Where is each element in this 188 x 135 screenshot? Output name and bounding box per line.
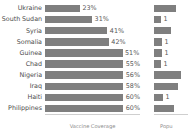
bar[interactable] <box>154 105 174 112</box>
bar[interactable] <box>45 94 123 101</box>
bar-row: Ukraine 23% <box>0 3 140 14</box>
bar[interactable] <box>154 94 163 101</box>
bar-row: Nigeria 56% <box>0 70 140 81</box>
bar-plot-area: Ukraine 23% South Sudan 31% Syria 41% <box>0 3 140 114</box>
bar-row: 1 <box>140 14 188 25</box>
bar[interactable] <box>154 27 171 34</box>
bar-track: 60% <box>45 92 140 103</box>
bar-track: 51% <box>45 47 140 58</box>
bar-row <box>140 81 188 92</box>
bar[interactable] <box>154 5 176 12</box>
bar-track: 1 <box>140 14 188 25</box>
bar-value-label: 51% <box>123 50 140 56</box>
bar-row: Chad 55% <box>0 58 140 69</box>
bar[interactable] <box>154 71 181 78</box>
bar[interactable] <box>45 60 123 67</box>
bar[interactable] <box>154 38 162 45</box>
bar-track: 23% <box>45 3 140 14</box>
bar-value-label: 1 <box>161 16 168 22</box>
bar-track <box>140 25 188 36</box>
bar-row: 1 <box>140 36 188 47</box>
bar-track: 1 <box>140 36 188 47</box>
bar-track: 58% <box>45 81 140 92</box>
bar-value-label: 1 <box>162 39 169 45</box>
bar-row: South Sudan 31% <box>0 14 140 25</box>
bar-value-label: 60% <box>123 105 140 111</box>
bar-row: Haiti 60% <box>0 92 140 103</box>
bar-value-label: 23% <box>80 5 97 11</box>
bar-track: 1 <box>140 47 188 58</box>
bar-row: Philippines 60% <box>0 103 140 114</box>
bar[interactable] <box>154 83 178 90</box>
bar[interactable] <box>45 105 123 112</box>
bar[interactable] <box>45 16 92 23</box>
bar-value-label: 1 <box>162 50 169 56</box>
category-label: Somalia <box>0 39 45 45</box>
x-axis-label: Vaccine Coverage <box>45 115 140 129</box>
bar-value-label: 41% <box>107 28 124 34</box>
category-label: Ukraine <box>0 5 45 11</box>
category-label: Guinea <box>0 50 45 56</box>
bar-track: 1 <box>140 92 188 103</box>
bar-track <box>140 103 188 114</box>
bar-row <box>140 25 188 36</box>
bar-plot-area: 1 1 1 <box>140 3 188 114</box>
bar-row <box>140 3 188 14</box>
bar-track: 55% <box>45 58 140 69</box>
category-label: Iraq <box>0 83 45 89</box>
population-bar-chart-clipped: 1 1 1 <box>140 0 188 135</box>
bar-row: 1 <box>140 58 188 69</box>
bar-value-label: 56% <box>123 72 140 78</box>
bar-track: 60% <box>45 103 140 114</box>
bar-track <box>140 81 188 92</box>
bar[interactable] <box>45 27 107 34</box>
bar-track: 56% <box>45 70 140 81</box>
bar-value-label: 1 <box>163 94 170 100</box>
bar-value-label: 42% <box>109 39 126 45</box>
category-label: Nigeria <box>0 72 45 78</box>
bar-row <box>140 70 188 81</box>
category-label: South Sudan <box>0 16 45 22</box>
bar-track <box>140 3 188 14</box>
category-label: Haiti <box>0 94 45 100</box>
bar-row: 1 <box>140 92 188 103</box>
bar-row: Somalia 42% <box>0 36 140 47</box>
bar[interactable] <box>154 49 162 56</box>
bar-track <box>140 70 188 81</box>
vaccine-coverage-bar-chart: Ukraine 23% South Sudan 31% Syria 41% <box>0 0 140 135</box>
bar-value-label: 1 <box>161 61 168 67</box>
bar[interactable] <box>45 5 80 12</box>
bar-track: 42% <box>45 36 140 47</box>
bar-track: 41% <box>45 25 140 36</box>
bar-row: 1 <box>140 47 188 58</box>
bar-row: Guinea 51% <box>0 47 140 58</box>
bar[interactable] <box>45 71 123 78</box>
bar-row: Syria 41% <box>0 25 140 36</box>
bar-row <box>140 103 188 114</box>
bar-value-label: 58% <box>123 83 140 89</box>
bar-row: Iraq 58% <box>0 81 140 92</box>
category-label: Philippines <box>0 105 45 111</box>
bar-track: 31% <box>45 14 140 25</box>
bar[interactable] <box>45 83 123 90</box>
category-label: Syria <box>0 28 45 34</box>
bar[interactable] <box>154 60 161 67</box>
bar[interactable] <box>45 49 123 56</box>
bar-value-label: 55% <box>123 61 140 67</box>
category-label: Chad <box>0 61 45 67</box>
bar-value-label: 31% <box>92 16 109 22</box>
bar-value-label: 60% <box>123 94 140 100</box>
bar-track: 1 <box>140 58 188 69</box>
bar[interactable] <box>154 16 161 23</box>
dual-bar-chart-figure: Ukraine 23% South Sudan 31% Syria 41% <box>0 0 188 135</box>
x-axis-label: Popu <box>154 115 188 129</box>
bar[interactable] <box>45 38 109 45</box>
